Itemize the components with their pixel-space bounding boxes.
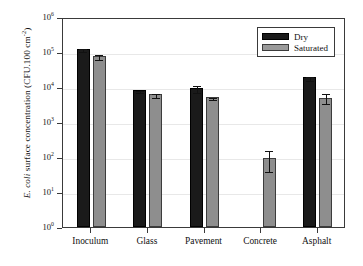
error-bar-cap-upper (136, 91, 144, 92)
legend: Dry Saturated (257, 27, 335, 57)
bar-asphalt-dry (303, 77, 316, 227)
chart-figure: E. coli surface concentration (CFU.100 c… (0, 0, 363, 266)
bar-pavement-saturated (206, 97, 219, 227)
bar-pavement-dry (190, 88, 203, 227)
error-bar-cap-upper (322, 94, 330, 95)
x-category-label: Asphalt (302, 236, 331, 246)
legend-label-dry: Dry (294, 32, 308, 42)
y-axis-title-tail: ) (22, 28, 32, 31)
error-bar-cap-lower (152, 98, 160, 99)
legend-swatch-dry (262, 33, 289, 40)
bar-inoculum-saturated (93, 56, 106, 227)
error-bar-stem (326, 94, 327, 104)
y-axis-title-exponent: -2 (20, 31, 27, 36)
error-bar-cap-lower (136, 93, 144, 94)
error-bar-cap-upper (265, 151, 273, 152)
bar-asphalt-saturated (319, 98, 332, 227)
x-tick-mark (260, 228, 261, 233)
error-bar-cap-upper (79, 49, 87, 50)
error-bar-cap-upper (193, 86, 201, 87)
x-tick-mark (317, 228, 318, 233)
error-bar-cap-upper (152, 94, 160, 95)
y-tick-label: 103 (14, 117, 54, 127)
x-category-label: Inoculum (72, 236, 108, 246)
error-bar-cap-lower (79, 52, 87, 53)
y-tick-mark (57, 228, 62, 229)
error-bar-cap-upper (95, 55, 103, 56)
legend-item-saturated: Saturated (262, 42, 328, 53)
error-bar-stem (269, 151, 270, 172)
error-bar-cap-lower (306, 81, 314, 82)
bar-inoculum-dry (77, 49, 90, 227)
x-tick-mark (147, 228, 148, 233)
bar-glass-dry (133, 90, 146, 227)
x-tick-mark (204, 228, 205, 233)
x-category-label: Glass (136, 236, 157, 246)
plot-area: Dry Saturated (62, 18, 345, 228)
x-category-label: Pavement (185, 236, 222, 246)
y-tick-label: 105 (14, 47, 54, 57)
y-tick-label: 106 (14, 12, 54, 22)
error-bar-cap-upper (209, 98, 217, 99)
y-tick-label: 102 (14, 152, 54, 162)
y-tick-label: 104 (14, 82, 54, 92)
error-bar-cap-lower (265, 172, 273, 173)
legend-swatch-saturated (262, 44, 289, 51)
x-tick-mark (90, 228, 91, 233)
error-bar-cap-lower (322, 104, 330, 105)
legend-label-saturated: Saturated (294, 43, 328, 53)
error-bar-cap-lower (95, 60, 103, 61)
error-bar-cap-lower (209, 100, 217, 101)
x-category-label: Concrete (243, 236, 277, 246)
error-bar-cap-lower (193, 93, 201, 94)
bar-glass-saturated (149, 94, 162, 227)
y-tick-label: 100 (14, 222, 54, 232)
error-bar-cap-upper (306, 77, 314, 78)
y-tick-label: 101 (14, 187, 54, 197)
legend-item-dry: Dry (262, 31, 328, 42)
